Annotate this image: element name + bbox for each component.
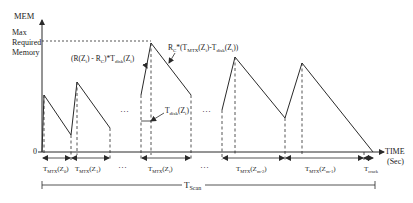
ellipsis-top-1: ··· [120, 106, 129, 116]
drop-leader [169, 53, 175, 63]
sawtooth-z0 [42, 95, 71, 152]
origin-label: 0 [33, 147, 37, 156]
x-axis-label: TIME [385, 147, 405, 156]
rise-formula: (R(Zi) - RC)*Tdisk(Zi) [71, 54, 135, 64]
interval-label-zi: TMTX(Zi) [148, 165, 173, 174]
interval-label-zm2: TMTX(Zm-2) [236, 165, 267, 174]
ellipsis-bottom-1: ··· [118, 162, 127, 172]
max-memory-label-1: Max [12, 28, 27, 37]
tscan-label: TScan [184, 180, 201, 191]
interval-label-zm1: TMTX(Zm-1) [305, 165, 336, 174]
interval-label-z1: TMTX(Z1) [75, 165, 101, 174]
tdisk-leader [151, 113, 164, 121]
memory-time-diagram: MEM Max Required Memory 0 TIME (Sec) (R(… [0, 0, 413, 203]
max-memory-label-3: Memory [12, 48, 40, 57]
tdisk-label: Tdisk(Zi) [165, 106, 189, 116]
x-axis-unit: (Sec) [387, 157, 404, 166]
interval-label-z0: TMTX(Z0) [43, 165, 69, 174]
drop-formula: RC*(TMTX(Zi)-Tdisk(Zi)) [168, 43, 239, 53]
y-axis-label: MEM [14, 11, 35, 21]
sawtooth-zm1 [285, 63, 373, 152]
sawtooth-zm2 [222, 57, 285, 118]
tcrack-label: Tcrack [364, 165, 379, 174]
ellipsis-top-2: ··· [202, 106, 211, 116]
max-memory-label-2: Required [12, 38, 41, 47]
ellipsis-bottom-2: ··· [200, 162, 209, 172]
